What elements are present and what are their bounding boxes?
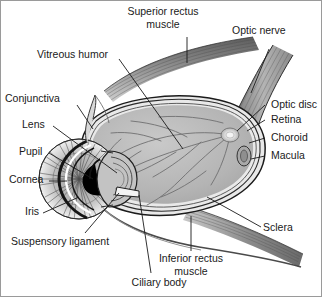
- label-vitreous-humor: Vitreous humor: [37, 48, 109, 60]
- label-conjunctiva: Conjunctiva: [5, 92, 60, 104]
- label-choroid: Choroid: [271, 131, 308, 143]
- label-suspensory-ligament: Suspensory ligament: [11, 235, 109, 247]
- optic-disc-shape: [221, 128, 239, 142]
- label-sclera: Sclera: [263, 221, 293, 233]
- label-inferior-rectus-line2: muscle: [174, 265, 207, 277]
- label-retina: Retina: [271, 113, 302, 125]
- label-superior-rectus-line2: muscle: [146, 18, 179, 30]
- label-macula: Macula: [271, 149, 305, 161]
- label-optic-nerve: Optic nerve: [232, 24, 286, 36]
- label-iris: Iris: [25, 205, 39, 217]
- label-pupil: Pupil: [19, 145, 42, 157]
- label-superior-rectus-line1: Superior rectus: [127, 5, 198, 17]
- eye-anatomy-diagram: Superior rectus muscle Optic nerve Vitre…: [0, 0, 322, 297]
- macula-shape: [237, 146, 251, 166]
- label-ciliary-body: Ciliary body: [132, 276, 188, 288]
- label-optic-disc: Optic disc: [271, 98, 317, 110]
- label-inferior-rectus-line1: Inferior rectus: [159, 252, 223, 264]
- label-cornea: Cornea: [9, 173, 44, 185]
- label-lens: Lens: [22, 118, 45, 130]
